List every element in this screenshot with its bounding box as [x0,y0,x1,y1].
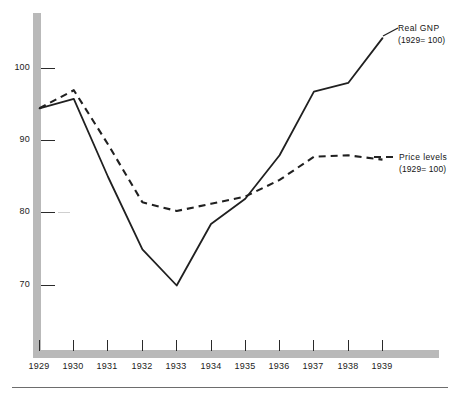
legend-sublabel-real-gnp: (1929= 100) [398,34,445,46]
leader-line-real-gnp [383,28,398,36]
x-axis-ticks [40,340,383,351]
x-tick-label-1934: 1934 [194,361,228,371]
x-tick-label-1932: 1932 [125,361,159,371]
legend-real-gnp: Real GNP (1929= 100) [398,22,445,46]
y-tick-label-70: 70 [4,279,30,289]
series-line-price-levels [40,90,383,211]
x-tick-label-1939: 1939 [365,361,399,371]
line-chart: 100 90 80 70 1929 1930 1931 1932 1933 19… [0,0,459,399]
x-tick-label-1933: 1933 [159,361,193,371]
legend-label-price-levels: Price levels [399,151,447,163]
y-tick-label-100: 100 [4,62,30,72]
x-tick-label-1930: 1930 [56,361,90,371]
x-tick-label-1935: 1935 [228,361,262,371]
y-tick-label-90: 90 [4,134,30,144]
y-tick-label-80: 80 [4,206,30,216]
legend-sublabel-price-levels: (1929= 100) [399,163,447,175]
chart-plot-area [0,0,459,399]
x-tick-label-1929: 1929 [22,361,56,371]
legend-price-levels: Price levels (1929= 100) [399,151,447,175]
x-tick-label-1936: 1936 [262,361,296,371]
x-tick-label-1931: 1931 [90,361,124,371]
footer-rule [12,387,448,388]
y-axis-bar [33,13,41,358]
legend-label-real-gnp: Real GNP [398,22,445,34]
x-tick-label-1938: 1938 [331,361,365,371]
x-tick-label-1937: 1937 [296,361,330,371]
series-line-real-gnp [40,38,383,285]
x-axis-bar [33,350,439,358]
